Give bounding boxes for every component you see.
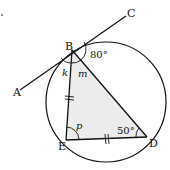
angle-p: p	[76, 120, 83, 131]
arc-80	[81, 42, 86, 60]
angle-80: 80°	[90, 49, 108, 60]
geometry-diagram: A B C D E k m 80° p 50°	[0, 0, 170, 170]
label-a: A	[12, 86, 22, 99]
diagram-svg: A B C D E k m 80° p 50°	[0, 0, 170, 170]
label-d: D	[149, 137, 158, 150]
angle-m: m	[78, 68, 87, 79]
angle-k: k	[62, 67, 68, 78]
label-c: C	[127, 7, 135, 20]
angle-50: 50°	[117, 125, 135, 136]
label-e: E	[58, 140, 66, 153]
label-b: B	[65, 40, 73, 53]
stray-dot	[1, 14, 3, 16]
